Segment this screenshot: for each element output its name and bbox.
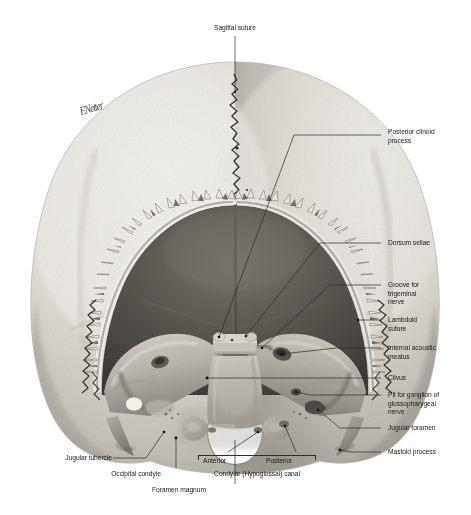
label-sagittal-suture: Sagittal suture bbox=[198, 24, 272, 33]
leader-posterior-clinoid-process bbox=[219, 135, 381, 337]
label-condylar-canal-posterior: Posterior bbox=[266, 457, 292, 466]
label-groove-for-trigeminal-nerve: Groove for trigeminal nerve bbox=[388, 281, 419, 307]
anatomy-plate: F.Netter bbox=[0, 0, 471, 515]
label-jugular-foramen: Jugular foramen bbox=[388, 424, 435, 433]
label-condylar-canal-anterior: Anterior bbox=[203, 457, 226, 466]
leader-lines bbox=[0, 0, 471, 515]
label-internal-acoustic-meatus: Internal acoustic meatus bbox=[388, 344, 436, 361]
leader-pit-ganglion bbox=[296, 392, 381, 395]
leader-jugular-tubercle bbox=[113, 432, 164, 458]
label-dorsum-sellae: Dorsum sellae bbox=[388, 239, 430, 248]
bracket-tick-right bbox=[315, 455, 316, 460]
leader-mastoid-process bbox=[340, 450, 381, 452]
label-foramen-magnum: Foramen magnum bbox=[133, 486, 224, 495]
label-occipital-condyle: Occipital condyle bbox=[97, 470, 175, 479]
label-mastoid-process: Mastoid process bbox=[388, 448, 436, 457]
bracket-tick-left bbox=[198, 455, 199, 460]
leader-condylar-posterior bbox=[285, 426, 296, 452]
label-condylar-hypoglossal-canal: Condylar (Hypoglossal) canal bbox=[200, 470, 313, 479]
leader-jugular-foramen bbox=[318, 410, 381, 428]
leader-dorsum-sellae bbox=[246, 243, 381, 336]
leader-internal-acoustic-meatus bbox=[282, 348, 381, 354]
label-clivus: Clivus bbox=[388, 374, 406, 383]
label-lambdoid-suture: Lambdoid suture bbox=[388, 316, 417, 333]
leader-groove-trigeminal bbox=[262, 285, 381, 348]
label-jugular-tubercle: Jugular tubercle bbox=[58, 454, 112, 463]
label-pit-for-ganglion-of-glossopharyngeal-nerve: Pit for ganglion of glossopharygeal nerv… bbox=[388, 391, 439, 417]
label-posterior-clinoid-process: Posterior clinoid process bbox=[388, 128, 435, 145]
leader-condylar-anterior bbox=[228, 432, 258, 452]
